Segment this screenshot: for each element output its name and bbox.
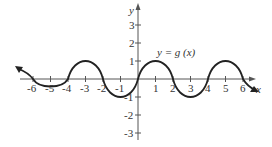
y-axis-label: y <box>129 5 134 16</box>
x-tick-label: -2 <box>97 83 106 94</box>
x-axis-arrow-icon <box>249 77 256 82</box>
x-tick-label: 2 <box>170 83 176 94</box>
x-tick-label: 1 <box>153 83 159 94</box>
y-tick-label: 3 <box>129 20 135 31</box>
x-tick-label: 5 <box>223 83 229 94</box>
x-tick-label: 3 <box>188 83 194 94</box>
function-graph <box>0 0 272 147</box>
y-tick-label: 1 <box>129 56 135 67</box>
y-tick-label: -2 <box>124 110 133 121</box>
x-tick-label: -5 <box>45 83 54 94</box>
y-tick-label: 2 <box>129 38 135 49</box>
function-label: y = g (x) <box>157 47 195 58</box>
y-tick-label: -1 <box>124 92 133 103</box>
x-tick-label: 4 <box>205 83 211 94</box>
x-axis-label: x <box>256 84 261 95</box>
x-tick-label: -6 <box>27 83 36 94</box>
y-tick-label: -3 <box>124 128 133 139</box>
y-axis-arrow-icon <box>136 3 141 10</box>
x-tick-label: -4 <box>62 83 71 94</box>
x-tick-label: -1 <box>115 83 124 94</box>
x-tick-label: -3 <box>80 83 89 94</box>
x-tick-label: 6 <box>240 83 246 94</box>
